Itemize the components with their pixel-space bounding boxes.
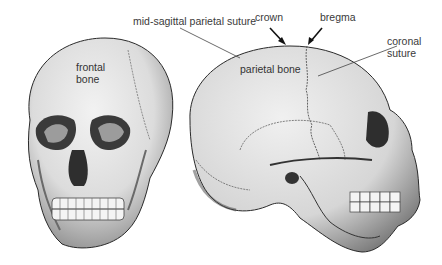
skull-illustrations <box>0 0 442 265</box>
coronal-suture-label-line1: coronal <box>387 35 421 47</box>
bregma-label: bregma <box>320 11 356 23</box>
lateral-skull <box>190 46 420 252</box>
coronal-suture-label-line2: suture <box>387 47 416 59</box>
frontal-bone-label-line2: bone <box>76 73 99 85</box>
mid-sagittal-leader-line <box>180 28 240 58</box>
frontal-bone-label-line1: frontal <box>76 61 105 73</box>
bregma-arrow-icon <box>308 28 322 45</box>
parietal-bone-label: parietal bone <box>240 63 301 75</box>
mid-sagittal-parietal-suture-label: mid-sagittal parietal suture <box>133 15 256 27</box>
crown-arrow-icon <box>270 28 286 45</box>
crown-label: crown <box>255 11 283 23</box>
skull-diagram: mid-sagittal parietal suture crown bregm… <box>0 0 442 265</box>
